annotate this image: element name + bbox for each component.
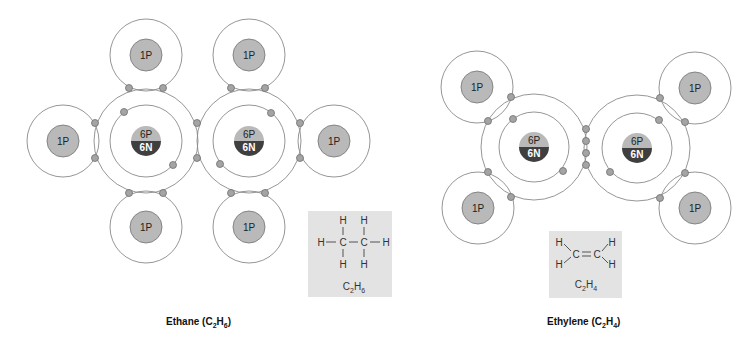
ethane-electrons	[92, 85, 304, 197]
svg-text:C2H4: C2H4	[575, 279, 597, 292]
svg-text:6N: 6N	[140, 142, 153, 153]
svg-text:H: H	[360, 259, 367, 270]
svg-text:6P: 6P	[140, 129, 153, 140]
svg-text:6N: 6N	[528, 148, 541, 159]
svg-text:6P: 6P	[631, 136, 644, 147]
svg-text:6N: 6N	[631, 149, 644, 160]
svg-text:1P: 1P	[140, 222, 153, 233]
svg-text:H: H	[339, 215, 346, 226]
svg-text:6N: 6N	[243, 142, 256, 153]
svg-text:1P: 1P	[243, 50, 256, 61]
svg-text:C: C	[593, 249, 600, 260]
ethylene-electrons	[485, 94, 689, 202]
ethylene-carbon-right: 6P 6N	[584, 95, 690, 201]
svg-text:H: H	[360, 215, 367, 226]
svg-text:1P: 1P	[57, 136, 70, 147]
svg-text:C: C	[572, 249, 579, 260]
ethane-carbon-right: 6P 6N	[197, 89, 301, 193]
svg-text:H: H	[608, 237, 615, 248]
svg-text:C: C	[339, 237, 346, 248]
svg-text:H: H	[339, 259, 346, 270]
ethane-hydrogen-top-right: 1P	[213, 19, 285, 91]
ethane-caption: Ethane (C2H6)	[166, 316, 231, 329]
svg-text:H: H	[317, 237, 324, 248]
ethylene-structural-formula: H H C C H H C2H4	[549, 231, 622, 298]
svg-text:1P: 1P	[471, 82, 484, 93]
ethylene-hydrogen-bottom-right: 1P	[659, 172, 731, 244]
ethane-hydrogen-bottom-right: 1P	[213, 191, 285, 263]
ethylene-carbon-left: 6P 6N	[481, 94, 587, 200]
ethylene-caption: Ethylene (C2H4)	[547, 316, 620, 329]
svg-text:H: H	[382, 237, 389, 248]
svg-text:H: H	[608, 259, 615, 270]
ethane-hydrogen-left: 1P	[27, 105, 99, 177]
svg-text:1P: 1P	[243, 222, 256, 233]
ethylene-hydrogen-top-right: 1P	[659, 52, 731, 124]
ethane-hydrogen-bottom-left: 1P	[110, 191, 182, 263]
svg-text:6P: 6P	[528, 135, 541, 146]
svg-text:H: H	[555, 237, 562, 248]
ethane-carbon-left: 6P 6N	[94, 89, 198, 193]
ethylene-model: 1P 1P 1P 1P 6P 6N	[441, 51, 731, 244]
svg-text:C2H6: C2H6	[343, 281, 365, 294]
ethane-structural-formula: H H H C C H H H C2H6	[308, 211, 392, 297]
svg-text:1P: 1P	[328, 136, 341, 147]
svg-text:6P: 6P	[243, 129, 256, 140]
svg-text:1P: 1P	[472, 203, 485, 214]
svg-text:C: C	[360, 237, 367, 248]
svg-text:H: H	[555, 259, 562, 270]
svg-text:1P: 1P	[689, 203, 702, 214]
ethylene-hydrogen-top-left: 1P	[441, 51, 513, 123]
ethylene-hydrogen-bottom-left: 1P	[442, 172, 514, 244]
ethane-hydrogen-top-left: 1P	[110, 19, 182, 91]
ethane-hydrogen-right: 1P	[298, 105, 370, 177]
svg-text:1P: 1P	[689, 83, 702, 94]
svg-text:1P: 1P	[140, 50, 153, 61]
